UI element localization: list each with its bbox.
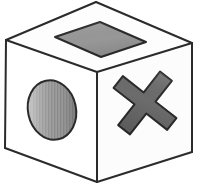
illustration-canvas — [0, 0, 203, 195]
edge-vertical-left — [5, 40, 6, 148]
die-cube-drawing — [0, 0, 203, 195]
